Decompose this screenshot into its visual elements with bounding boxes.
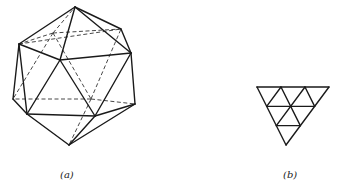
hidden-edge [19, 33, 53, 44]
visible-edge [19, 44, 27, 114]
panel-b-label: (b) [283, 169, 297, 180]
visible-edge [19, 44, 60, 60]
figure-canvas: (a) (b) [0, 0, 338, 187]
hidden-edge [19, 29, 121, 44]
visible-edge [60, 60, 95, 116]
visible-edge [131, 53, 135, 104]
triangle-edge [257, 87, 286, 145]
hidden-edge [91, 29, 121, 99]
hidden-edge [53, 33, 91, 99]
hidden-edge [91, 99, 135, 104]
visible-edges [13, 7, 135, 145]
visible-edge [60, 53, 131, 60]
subdivided-triangle-diagram [257, 87, 329, 145]
triangle-edge [286, 87, 329, 145]
visible-edge [27, 114, 69, 145]
hidden-edge [53, 29, 121, 33]
icosahedron-diagram [13, 7, 135, 145]
panel-a-label: (a) [60, 169, 74, 180]
subdivision-line [305, 87, 315, 106]
visible-edge [27, 114, 95, 116]
subdivision-line [267, 87, 281, 106]
visible-edge [75, 7, 131, 53]
hidden-edge [13, 33, 53, 99]
